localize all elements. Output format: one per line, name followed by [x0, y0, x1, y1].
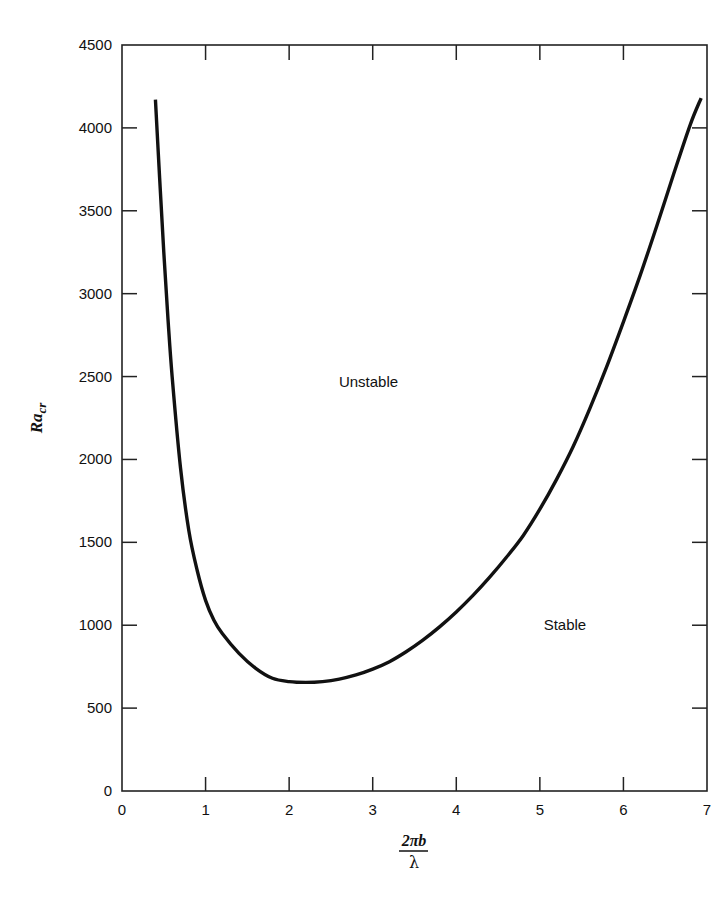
- x-axis-tick-labels: 01234567: [118, 801, 711, 818]
- y-tick-label: 1500: [79, 533, 112, 550]
- y-axis-label: Racr: [27, 402, 49, 435]
- x-axis-ticks: [206, 45, 624, 791]
- region-label-unstable: Unstable: [339, 373, 398, 390]
- x-tick-label: 3: [369, 801, 377, 818]
- y-tick-label: 4000: [79, 119, 112, 136]
- x-tick-label: 0: [118, 801, 126, 818]
- y-tick-label: 3000: [79, 285, 112, 302]
- y-axis-tick-labels: 050010001500200025003000350040004500: [79, 36, 112, 799]
- plot-frame: [122, 45, 707, 791]
- y-axis-label-main: Ra: [27, 413, 46, 434]
- x-tick-label: 4: [452, 801, 460, 818]
- svg-text:Racr: Racr: [27, 402, 49, 435]
- y-tick-label: 3500: [79, 202, 112, 219]
- chart-canvas: 01234567 0500100015002000250030003500400…: [0, 0, 717, 899]
- x-tick-label: 5: [536, 801, 544, 818]
- data-series: [155, 98, 701, 682]
- y-axis-ticks: [122, 128, 707, 708]
- x-tick-label: 7: [703, 801, 711, 818]
- x-tick-label: 1: [201, 801, 209, 818]
- x-tick-label: 6: [619, 801, 627, 818]
- y-tick-label: 2500: [79, 368, 112, 385]
- x-axis-label-denominator: λ: [409, 853, 419, 872]
- region-annotations: UnstableStable: [339, 373, 586, 634]
- y-axis-label-sub: cr: [34, 402, 49, 414]
- stability-curve: [155, 98, 701, 682]
- y-tick-label: 1000: [79, 616, 112, 633]
- y-tick-label: 4500: [79, 36, 112, 53]
- y-tick-label: 0: [104, 782, 112, 799]
- plot-border: [122, 45, 707, 791]
- y-tick-label: 2000: [79, 450, 112, 467]
- y-tick-label: 500: [87, 699, 112, 716]
- x-axis-label: 2πb λ: [399, 832, 428, 872]
- x-tick-label: 2: [285, 801, 293, 818]
- x-axis-label-numerator: 2πb: [401, 832, 427, 849]
- region-label-stable: Stable: [544, 616, 587, 633]
